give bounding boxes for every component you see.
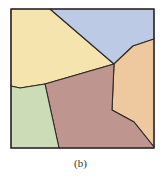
- figure-caption: (b): [0, 157, 161, 169]
- partition-diagram: [0, 0, 161, 176]
- regions-group: [11, 9, 154, 148]
